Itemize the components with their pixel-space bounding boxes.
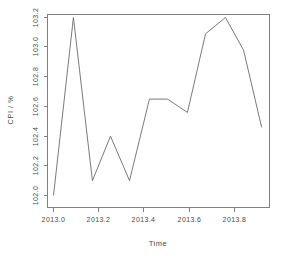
x-tick-label-2013.0: 2013.0 [42, 216, 66, 223]
x-tick-label-2013.2: 2013.2 [87, 216, 111, 223]
y-tick-label-102.6: 102.6 [32, 97, 39, 117]
x-axis-ticks [54, 208, 235, 212]
y-tick-label-102.4: 102.4 [32, 127, 39, 147]
x-tick-label-2013.4: 2013.4 [132, 216, 156, 223]
y-axis-ticks [44, 18, 48, 196]
y-axis-title: CPI / % [6, 96, 15, 125]
plot-frame-box [48, 15, 270, 208]
chart-plot-area: 102.0 102.2 102.4 102.6 102.8 103.0 103.… [0, 0, 282, 258]
y-axis-tick-labels: 102.0 102.2 102.4 102.6 102.8 103.0 103.… [32, 8, 39, 206]
y-tick-label-102.8: 102.8 [32, 67, 39, 87]
y-tick-label-103.0: 103.0 [32, 37, 39, 57]
x-tick-label-2013.6: 2013.6 [178, 216, 202, 223]
line-chart-canvas: 102.0 102.2 102.4 102.6 102.8 103.0 103.… [0, 0, 282, 258]
y-tick-label-102.0: 102.0 [32, 186, 39, 206]
cpi-series-line [54, 18, 262, 196]
y-tick-label-102.2: 102.2 [32, 156, 39, 176]
x-axis-title: Time [149, 239, 167, 248]
x-axis-tick-labels: 2013.0 2013.2 2013.4 2013.6 2013.8 [42, 216, 247, 223]
y-tick-label-103.2: 103.2 [32, 8, 39, 28]
x-tick-label-2013.8: 2013.8 [223, 216, 247, 223]
